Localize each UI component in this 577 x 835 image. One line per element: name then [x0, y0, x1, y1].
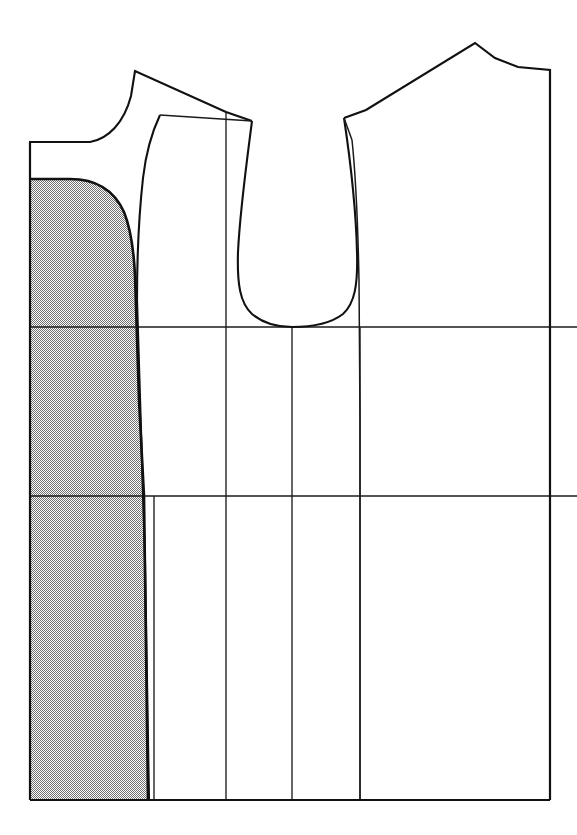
pattern-draft-page: [0, 0, 577, 835]
shaded-side-panel: [30, 179, 148, 800]
pattern-draft-canvas: [0, 0, 577, 835]
